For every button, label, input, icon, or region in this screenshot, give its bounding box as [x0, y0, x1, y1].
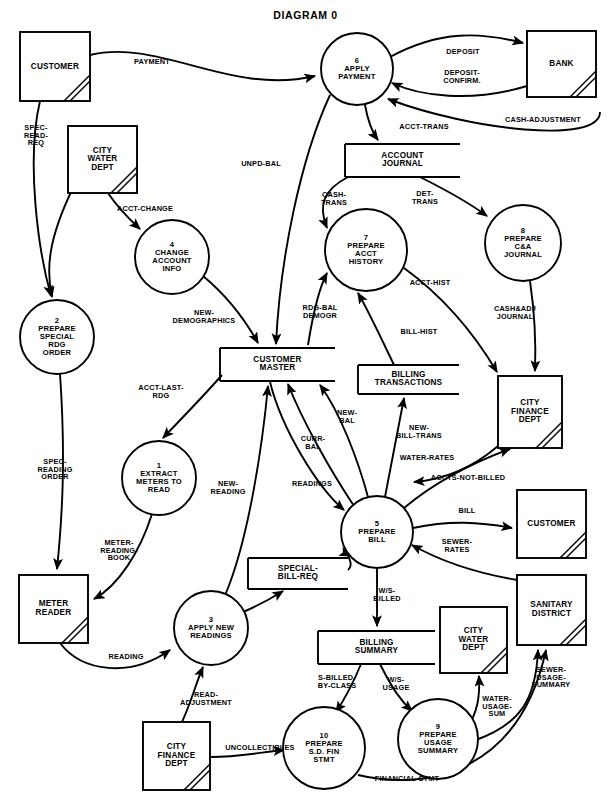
data-flow-label-bill: BILL — [458, 507, 475, 515]
data-store-account-journal: ACCOUNT JOURNAL — [381, 152, 423, 169]
data-flow-label-cash-trans: CASH- TRANS — [321, 191, 347, 206]
data-flow-label-s-billed-by-class: S-BILLED- BY-CLASS — [318, 674, 357, 689]
process-p7: 7PREPARE ACCT HISTORY — [347, 234, 385, 266]
data-flow-label-new-reading: NEW- READING — [210, 480, 245, 495]
external-entity-customer-top: CUSTOMER — [31, 62, 79, 71]
data-flow-label-bill-hist: BILL-HIST — [400, 328, 437, 336]
data-flow-label-cash-adjustment: CASH-ADJUSTMENT — [505, 116, 581, 124]
data-flow-label-acct-trans: ACCT-TRANS — [399, 123, 448, 131]
data-store-customer-master: CUSTOMER MASTER — [253, 356, 301, 373]
process-label: CHANGE ACCOUNT INFO — [152, 249, 191, 273]
process-p6: 6APPLY PAYMENT — [338, 57, 375, 81]
process-p4: 4CHANGE ACCOUNT INFO — [152, 241, 191, 273]
process-label: PREPARE SPECIAL RDG ORDER — [38, 325, 76, 357]
process-label: APPLY PAYMENT — [338, 65, 375, 81]
external-entity-city-finance-dept-bottom: CITY FINANCE DEPT — [158, 743, 196, 769]
data-flow-label-new-bill-trans: NEW- BILL-TRANS — [396, 424, 442, 439]
process-p8: 8PREPARE C&A JOURNAL — [504, 227, 542, 259]
data-flow-label-sewer-usage-summary: SEWER- USAGE- SUMMARY — [532, 666, 571, 689]
data-flow-label-sewer-rates: SEWER- RATES — [442, 538, 472, 553]
external-entity-customer-right: CUSTOMER — [527, 520, 575, 529]
page-title: DIAGRAM 0 — [0, 10, 611, 21]
data-flow-label-reading: READING — [108, 653, 143, 661]
process-label: PREPARE BILL — [358, 528, 396, 544]
data-flow-label-payment: PAYMENT — [134, 58, 170, 66]
process-p9: 9PREPARE USAGE SUMMARY — [418, 723, 458, 755]
process-label: PREPARE C&A JOURNAL — [504, 235, 542, 259]
data-store-special-bill-req: SPECIAL- BILL-REQ — [278, 565, 318, 582]
external-entity-city-water-dept-top: CITY WATER DEPT — [88, 146, 118, 172]
external-entity-sanitary-district: SANITARY DISTRICT — [530, 601, 573, 618]
process-p1: 1EXTRACT METERS TO READ — [136, 462, 182, 494]
process-label: PREPARE S.D. FIN STMT — [305, 740, 343, 764]
data-flow-label-readings: READINGS — [292, 480, 332, 488]
data-flow-label-water-usage-sum: WATER- USAGE- SUM — [482, 695, 512, 718]
data-flow-label-ws-usage: W/S- USAGE — [383, 676, 410, 691]
data-flow-label-financial-stmt: FINANCIAL-STMT — [375, 775, 439, 783]
process-p2: 2PREPARE SPECIAL RDG ORDER — [38, 317, 76, 357]
data-flow-label-acct-change: ACCT-CHANGE — [117, 205, 173, 213]
data-flow-label-acct-last-rdg: ACCT-LAST- RDG — [138, 384, 183, 399]
process-label: PREPARE USAGE SUMMARY — [418, 731, 458, 755]
data-flow-label-read-adjustment: READ- ADJUSTMENT — [180, 691, 232, 706]
data-flow-label-rdg-bal-demogr: RDG-BAL DEMOGR — [302, 304, 337, 319]
data-flow-label-spec-reading-order: SPEC- READING ORDER — [37, 458, 72, 481]
data-flow-label-cash-adj-journal: CASH&ADJ JOURNAL — [494, 305, 536, 320]
data-flow-label-det-trans: DET- TRANS — [412, 190, 438, 205]
external-entity-bank: BANK — [549, 60, 573, 69]
data-flow-label-acct-hist: ACCT-HIST — [410, 279, 451, 287]
data-flow-label-uncollectibles: UNCOLLECTIBLES — [225, 744, 294, 752]
process-label: APPLY NEW READINGS — [188, 624, 234, 640]
data-flow-label-accts-not-billed: ACCTS-NOT-BILLED — [431, 474, 506, 482]
data-flow-label-deposit: DEPOSIT — [446, 48, 479, 56]
data-flow-label-meter-reading-book: METER- READING- BOOK — [100, 539, 138, 562]
process-label: PREPARE ACCT HISTORY — [347, 242, 385, 266]
data-store-billing-transactions: BILLING TRANSACTIONS — [375, 371, 442, 388]
data-flow-label-water-rates: WATER-RATES — [400, 454, 455, 462]
data-flow-label-new-demographics: NEW- DEMOGRAPHICS — [173, 309, 236, 324]
data-flow-label-new-bal: NEW- BAL — [337, 409, 357, 424]
process-label: EXTRACT METERS TO READ — [136, 470, 182, 494]
data-flow-label-deposit-confirm: DEPOSIT- CONFIRM. — [443, 69, 481, 84]
process-p3: 3APPLY NEW READINGS — [188, 616, 234, 640]
external-entity-city-finance-dept-right: CITY FINANCE DEPT — [511, 399, 549, 425]
data-flow-label-curr-bal: CURR- BAL — [301, 435, 326, 450]
process-p10: 10PREPARE S.D. FIN STMT — [305, 732, 343, 764]
process-p5: 5PREPARE BILL — [358, 520, 396, 544]
external-entity-city-water-dept-bottom: CITY WATER DEPT — [459, 627, 489, 653]
data-store-billing-summary: BILLING SUMMARY — [355, 639, 398, 656]
data-flow-label-unpd-bal: UNPD-BAL — [241, 160, 281, 168]
data-flow-label-ws-billed: W/S- BILLED — [373, 587, 401, 602]
dfd-diagram-canvas: DIAGRAM 0 CUSTOMERBANKCITY WATER DEPTMET… — [0, 0, 611, 808]
external-entity-meter-reader: METER READER — [36, 600, 72, 617]
data-flow-label-spec-read-req: SPEC- READ- REQ — [24, 124, 48, 147]
